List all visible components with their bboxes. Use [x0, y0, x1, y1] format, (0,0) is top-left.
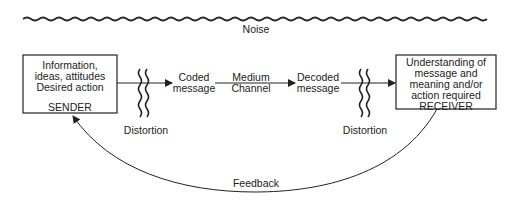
distortion-squiggle-left	[139, 69, 149, 117]
receiver-description: Understanding of message and meaning and…	[396, 57, 496, 112]
medium-line-2: Channel	[229, 83, 273, 94]
sender-line-3: Desired action	[23, 82, 117, 93]
sender-role: SENDER	[23, 102, 117, 113]
sender-description: Information, ideas, attitudes Desired ac…	[23, 60, 117, 113]
distortion-label-left: Distortion	[118, 125, 174, 136]
feedback-label: Feedback	[230, 178, 282, 189]
distortion-squiggle-right	[360, 69, 370, 117]
coded-line-2: message	[172, 83, 216, 94]
receiver-role: RECEIVER	[396, 101, 496, 112]
noise-label: Noise	[240, 24, 272, 35]
medium-channel-label: Medium Channel	[229, 72, 273, 94]
coded-message-label: Coded message	[172, 72, 216, 94]
distortion-label-right: Distortion	[337, 125, 393, 136]
noise-wave	[23, 18, 487, 21]
decoded-message-label: Decoded message	[295, 72, 341, 94]
decoded-line-2: message	[295, 83, 341, 94]
